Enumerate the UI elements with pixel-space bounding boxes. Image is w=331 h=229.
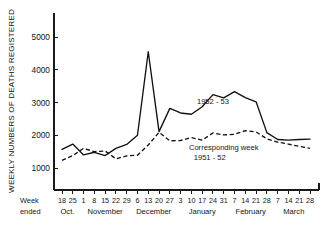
y-axis-tick-label: 1000 — [32, 163, 51, 173]
x-axis-month-label: January — [189, 207, 216, 216]
x-axis-tick-label: 15 — [101, 196, 109, 205]
x-axis-tick-label: 21 — [295, 196, 303, 205]
x-axis-tick-label: 18 — [58, 196, 66, 205]
y-axis-tick-label: 3000 — [32, 98, 51, 108]
y-axis-tick-label: 5000 — [32, 32, 51, 42]
x-axis-tick-label: 27 — [166, 196, 174, 205]
x-axis-tick-label: 29 — [123, 196, 131, 205]
x-axis-tick-label: 10 — [187, 196, 195, 205]
series-line-1 — [62, 52, 310, 156]
x-axis-tick-label: 3 — [179, 196, 183, 205]
x-axis-tick-label: 14 — [241, 196, 249, 205]
x-axis-month-label: March — [283, 207, 304, 216]
x-axis-corner-label-ended: ended — [20, 207, 41, 216]
x-axis-tick-label: 17 — [198, 196, 206, 205]
series-annotation-1952-53: 1952 - 53 — [197, 97, 229, 106]
deaths-registered-line-chart: 10002000300040005000WEEKLY NUMBERS OF DE… — [0, 0, 331, 229]
y-axis-tick-label: 4000 — [32, 65, 51, 75]
x-axis-tick-label: 28 — [306, 196, 314, 205]
x-axis-tick-label: 8 — [92, 196, 96, 205]
x-axis-tick-label: 13 — [144, 196, 152, 205]
series-line-2 — [62, 131, 310, 161]
y-axis-title: WEEKLY NUMBERS OF DEATHS REGISTERED — [7, 9, 16, 193]
x-axis-tick-label: 25 — [69, 196, 77, 205]
x-axis-tick-label: 6 — [135, 196, 139, 205]
x-axis-tick-label: 20 — [155, 196, 163, 205]
x-axis-tick-label: 7 — [276, 196, 280, 205]
x-axis-month-label: December — [136, 207, 171, 216]
x-axis-tick-label: 7 — [233, 196, 237, 205]
x-axis-tick-label: 24 — [209, 196, 217, 205]
series-annotation-1951-52: 1951 - 52 — [194, 153, 226, 162]
series-annotation-corresponding-week: Corresponding week — [189, 143, 259, 152]
x-axis-tick-label: 21 — [252, 196, 260, 205]
y-axis-tick-label: 2000 — [32, 130, 51, 140]
x-axis-tick-label: 22 — [112, 196, 120, 205]
x-axis-tick-label: 1 — [82, 196, 86, 205]
x-axis-month-label: November — [88, 207, 123, 216]
x-axis-tick-label: 14 — [284, 196, 292, 205]
x-axis-month-label: Oct. — [60, 207, 74, 216]
x-axis-tick-label: 28 — [263, 196, 271, 205]
x-axis-corner-label-week: Week — [20, 196, 39, 205]
x-axis-tick-label: 31 — [220, 196, 228, 205]
x-axis-month-label: February — [236, 207, 267, 216]
